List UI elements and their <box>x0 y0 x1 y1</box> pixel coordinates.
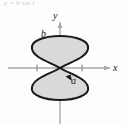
x-axis-arrowhead <box>104 66 110 71</box>
curve-upper-lobe <box>32 36 88 68</box>
y-axis-label: y <box>53 11 57 21</box>
a-annotation-label: a <box>71 76 76 86</box>
curve-lower-lobe <box>32 68 88 100</box>
figure-container: y = b sin t y x b a <box>0 0 127 125</box>
plot-svg <box>0 0 127 125</box>
b-annotation-label: b <box>41 29 46 39</box>
x-axis-label: x <box>113 63 117 73</box>
y-axis-arrowhead <box>58 22 63 28</box>
